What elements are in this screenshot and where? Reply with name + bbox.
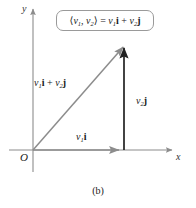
- figure-caption: (b): [0, 185, 196, 196]
- vertical-component-label: v2j: [136, 96, 147, 106]
- eq-v2-subscript: 2: [91, 20, 94, 27]
- eq-v1-subscript: 1: [78, 20, 81, 27]
- origin-label: O: [20, 152, 28, 163]
- x-axis-label: x: [176, 152, 180, 162]
- eq-v2: v: [86, 15, 90, 26]
- diag-sub1: 1: [38, 82, 41, 89]
- resultant-vector-label: v1i + v2j: [34, 78, 66, 88]
- diag-sub2: 2: [60, 82, 63, 89]
- vert-unit-vector-j: j: [144, 95, 147, 106]
- horizontal-component-label: v1i: [76, 132, 86, 142]
- horiz-unit-vector-i: i: [84, 131, 87, 142]
- equation-text: ⟨v1, v2⟩ = v1i + v2j: [69, 15, 140, 26]
- eq-term1-subscript: 1: [113, 20, 116, 27]
- diag-unit-vector-j: j: [63, 77, 66, 88]
- diag-scalar2: v: [55, 77, 59, 88]
- diagram-canvas: [0, 0, 196, 208]
- y-axis-label: y: [22, 4, 26, 14]
- eq-term2-subscript: 2: [134, 20, 137, 27]
- vector-component-diagram: ⟨v1, v2⟩ = v1i + v2j v1i + v2j v2j v1i y…: [0, 0, 196, 208]
- horiz-sub: 1: [80, 136, 83, 143]
- eq-term2-unit-vector-j: j: [137, 15, 140, 26]
- eq-plus-sign: +: [119, 15, 130, 26]
- diag-plus: +: [44, 77, 55, 88]
- equation-callout-box: ⟨v1, v2⟩ = v1i + v2j: [56, 10, 154, 31]
- vert-sub: 2: [140, 100, 143, 107]
- eq-equals-sign: =: [98, 15, 109, 26]
